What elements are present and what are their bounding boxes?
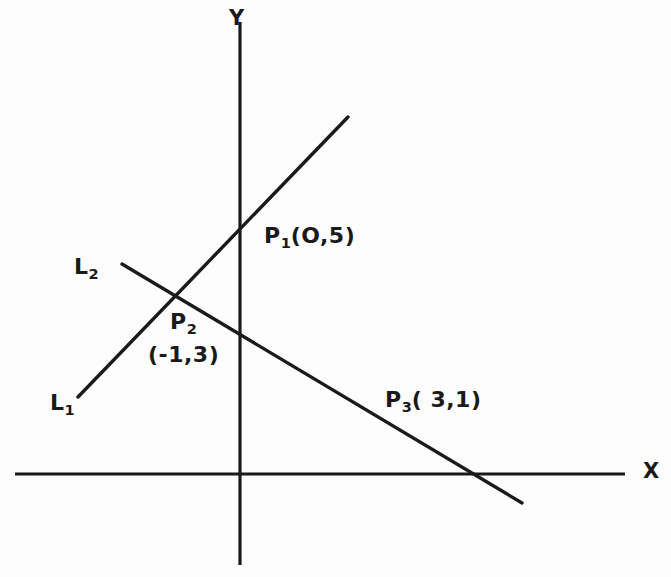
point-label-p1-coords: (O,5): [291, 223, 356, 248]
point-label-p2-coords: (-1,3): [148, 344, 219, 366]
line-label-l1-base: L: [50, 390, 65, 415]
point-label-p2: P2: [170, 311, 197, 336]
line-label-l2: L2: [74, 256, 99, 281]
point-label-p3-subscript: 3: [402, 399, 412, 415]
line-label-l1-subscript: 1: [65, 402, 75, 418]
x-axis-label: X: [643, 461, 660, 482]
diagram-canvas: [0, 0, 671, 577]
y-axis-label: Y: [229, 8, 245, 29]
point-label-p3-coords: ( 3,1): [412, 387, 482, 412]
point-label-p2-subscript: 2: [187, 321, 197, 337]
point-label-p1-base: P: [264, 223, 281, 248]
point-label-p1-subscript: 1: [281, 235, 291, 251]
line-label-l1: L1: [50, 392, 75, 417]
coordinate-diagram: Y X L2 L1 P1(O,5) P2 (-1,3) P3( 3,1): [0, 0, 671, 577]
point-label-p1: P1(O,5): [264, 225, 355, 250]
line-l2: [122, 264, 522, 503]
point-label-p3-base: P: [385, 387, 402, 412]
line-label-l2-subscript: 2: [89, 266, 99, 282]
point-label-p2-base: P: [170, 309, 187, 334]
line-label-l2-base: L: [74, 254, 89, 279]
point-label-p3: P3( 3,1): [385, 389, 481, 414]
